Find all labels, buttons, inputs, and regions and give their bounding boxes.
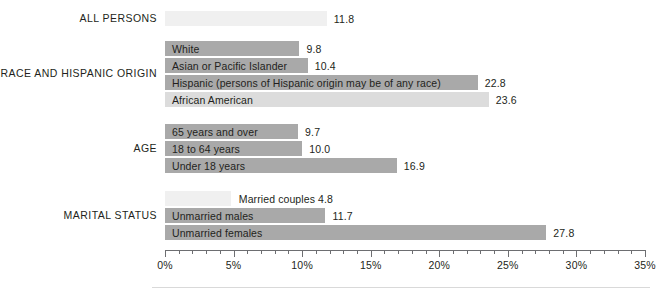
axis-line [165,250,645,251]
axis-tick-minor [467,250,468,254]
axis-tick-minor [316,250,317,254]
bar-label: Asian or Pacific Islander [165,60,287,72]
bar-value-label: 16.9 [404,160,425,172]
bar: White [165,40,299,57]
bar: Unmarried males [165,207,325,224]
axis-tick-minor [522,250,523,254]
axis-tick-minor [192,250,193,254]
axis-tick-minor [604,250,605,254]
bar-value-label: 11.7 [332,210,352,222]
bar: Asian or Pacific Islander [165,57,308,74]
axis-tick-major [645,250,646,257]
bar-value-label: 9.8 [306,43,321,55]
bar: African American [165,91,489,108]
axis-tick-minor [275,250,276,254]
bar: Married couples 4.8 [165,190,231,207]
axis-tick-minor [590,250,591,254]
bar: Unmarried females [165,224,546,241]
axis-tick-minor [179,250,180,254]
axis-tick-label: 5% [226,259,242,271]
axis-tick-major [302,250,303,257]
bar-label: Unmarried females [165,227,262,239]
axis-tick-minor [494,250,495,254]
axis-tick-minor [384,250,385,254]
axis-tick-label: 25% [497,259,519,271]
axis-tick-minor [357,250,358,254]
bar-value-label: 9.7 [305,126,320,138]
bar [165,10,327,27]
axis-tick-major [576,250,577,257]
bar-value-label: 22.8 [485,77,506,89]
axis-tick-minor [631,250,632,254]
axis-tick-label: 10% [291,259,313,271]
axis-tick-minor [220,250,221,254]
bar-label: Hispanic (persons of Hispanic origin may… [165,77,441,89]
bar-value-label: 10.4 [315,60,336,72]
bar: Under 18 years [165,157,397,174]
axis-tick-minor [563,250,564,254]
axis-tick-label: 35% [634,259,656,271]
axis-tick-major [234,250,235,257]
bar-label: White [165,43,199,55]
axis-tick-minor [206,250,207,254]
bar-value-label: 10.0 [309,143,330,155]
axis-tick-minor [261,250,262,254]
axis-tick-label: 0% [157,259,173,271]
bar-value-label: 27.8 [553,227,574,239]
bar-label: Under 18 years [165,160,245,172]
group-label-age: AGE [133,142,157,154]
bar-label: 18 to 64 years [165,143,240,155]
bar-label: African American [165,94,253,106]
axis-tick-minor [288,250,289,254]
bar-value-label: 11.8 [334,13,354,25]
axis-tick-minor [480,250,481,254]
bar-label: 65 years and over [165,126,258,138]
axis-tick-minor [412,250,413,254]
bar-label: Married couples 4.8 [231,193,333,205]
axis-tick-minor [247,250,248,254]
axis-tick-major [508,250,509,257]
axis-tick-label: 20% [428,259,450,271]
axis-tick-label: 15% [360,259,382,271]
axis-tick-major [371,250,372,257]
x-axis: 0%5%10%15%20%25%30%35% [165,250,645,296]
axis-tick-minor [426,250,427,254]
group-label-marital-status: MARITAL STATUS [64,209,157,221]
axis-tick-major [165,250,166,257]
group-label-all-persons: ALL PERSONS [79,12,157,24]
footer-rule [152,287,650,288]
bar: 18 to 64 years [165,140,302,157]
axis-tick-minor [343,250,344,254]
axis-tick-minor [398,250,399,254]
bar: 65 years and over [165,123,298,140]
axis-tick-minor [330,250,331,254]
axis-tick-minor [549,250,550,254]
group-label-race-and-hispanic-origin: RACE AND HISPANIC ORIGIN [1,67,157,79]
bar-label: Unmarried males [165,210,253,222]
axis-tick-minor [618,250,619,254]
axis-tick-minor [453,250,454,254]
bar-value-label: 23.6 [496,94,517,106]
bar: Hispanic (persons of Hispanic origin may… [165,74,478,91]
axis-tick-minor [535,250,536,254]
bar-chart: 0%5%10%15%20%25%30%35% ALL PERSONS11.8RA… [0,0,660,298]
axis-tick-label: 30% [566,259,588,271]
axis-tick-major [439,250,440,257]
